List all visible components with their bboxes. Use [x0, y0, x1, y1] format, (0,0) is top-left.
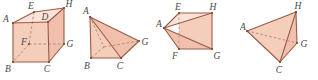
vertex-label-B: B [84, 61, 90, 71]
figure-cube-abcdefgh: E H A D F G B C [0, 0, 78, 80]
vertex-label-A: A [82, 6, 89, 16]
vertex-label-A: A [2, 14, 9, 24]
vertex-label-G: G [67, 39, 74, 49]
vertex-label-E: E [27, 1, 34, 11]
vertex-label-C: C [276, 65, 283, 75]
vertex-label-G: G [142, 37, 149, 47]
vertex-label-H: H [209, 2, 218, 12]
vertex-label-D: D [41, 12, 49, 22]
vertex-label-B: B [5, 64, 11, 74]
vertex-label-C: C [117, 61, 124, 71]
figure-panel: E H A D F G B C [0, 0, 318, 80]
vertex-label-E: E [174, 2, 181, 12]
vertex-label-G: G [214, 51, 221, 61]
vertex-label-H: H [65, 0, 74, 9]
figure-pyramid-achg: H A G C [240, 0, 318, 80]
figure-pyramid-abcg: A G B C [78, 0, 150, 80]
vertex-label-F: F [20, 37, 27, 47]
vertex-label-G: G [301, 39, 308, 49]
figure-pyramid-aefgh: E H A F G [156, 0, 234, 80]
vertex-label-C: C [44, 64, 51, 74]
vertex-label-H: H [294, 1, 303, 11]
vertex-label-F: F [171, 51, 178, 61]
vertex-label-A: A [240, 22, 246, 32]
vertex-label-A: A [156, 19, 162, 29]
